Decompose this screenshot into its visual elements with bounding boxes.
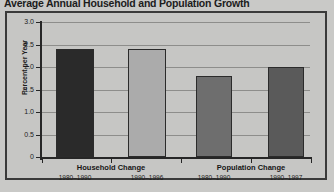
bar [268, 67, 304, 157]
bar [128, 49, 166, 157]
x-axis-tick [42, 159, 43, 163]
period-label: 1990–1997 [251, 174, 321, 181]
y-axis-tick-label: 0.5 [14, 131, 34, 138]
y-axis-line [40, 21, 42, 160]
y-axis-tick-label: 3.0 [14, 18, 34, 25]
period-label: 1990–1996 [112, 174, 182, 181]
y-axis-tick-label: 2.0 [14, 63, 34, 70]
group-label: Population Change [191, 163, 311, 172]
y-axis-tick-label: 2.5 [14, 41, 34, 48]
y-axis-tick-label: 0 [14, 153, 34, 160]
period-label: 1980–1990 [179, 174, 249, 181]
gridline [42, 45, 310, 46]
x-axis-tick [311, 159, 312, 163]
chart-title: Average Annual Household and Population … [4, 0, 250, 9]
x-axis-tick [181, 159, 182, 163]
group-label: Household Change [51, 163, 171, 172]
bar [196, 76, 232, 157]
chart-screenshot: Average Annual Household and Population … [0, 0, 334, 192]
gridline [42, 22, 310, 23]
x-axis-line [40, 157, 312, 159]
y-axis-tick-label: 1.0 [14, 108, 34, 115]
y-axis-tick-label: 1.5 [14, 86, 34, 93]
bar [56, 49, 94, 157]
period-label: 1980–1990 [40, 174, 110, 181]
